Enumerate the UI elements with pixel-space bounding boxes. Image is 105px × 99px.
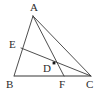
vertex-label-D: D (43, 63, 51, 74)
segment-EC (21, 48, 91, 76)
vertex-label-C: C (86, 79, 93, 90)
segment-AC (33, 16, 91, 76)
point-marker-D (53, 62, 56, 65)
segment-AB (14, 16, 33, 76)
vertex-label-F: F (59, 79, 65, 90)
geometry-diagram: A B C D E F (0, 0, 105, 99)
vertex-label-B: B (6, 79, 13, 90)
vertex-label-E: E (9, 39, 16, 50)
vertex-label-A: A (30, 2, 38, 13)
